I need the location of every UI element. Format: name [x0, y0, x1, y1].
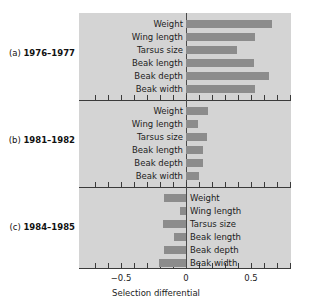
panel-index-c: (c): [9, 222, 23, 232]
bar-c-2: [163, 220, 186, 228]
bar-b-1: [186, 120, 198, 128]
bar-row: [79, 218, 291, 231]
bar-row: [79, 192, 291, 205]
bar-label: Beak width: [86, 170, 183, 182]
bar-row: [79, 244, 291, 257]
bar-label: Wing length: [190, 205, 241, 217]
bar-c-0: [164, 194, 186, 202]
bar-label: Tarsus size: [86, 131, 183, 143]
bar-b-2: [186, 133, 207, 141]
bar-a-3: [186, 59, 254, 67]
bar-a-0: [186, 20, 272, 28]
bar-a-4: [186, 72, 269, 80]
bar-b-5: [186, 172, 199, 180]
panel-period-a: 1976–1977: [23, 48, 75, 58]
bar-label: Tarsus size: [190, 218, 236, 230]
x-tick-label: 0.5: [244, 273, 258, 283]
bar-row: [79, 257, 291, 270]
bar-label: Weight: [190, 192, 220, 204]
bar-label: Beak length: [190, 231, 241, 243]
bar-label: Wing length: [86, 118, 183, 130]
panel-caption-b: (b) 1981–1982: [3, 135, 75, 145]
bar-row: [79, 205, 291, 218]
figure-selection-differential: WeightWing lengthTarsus sizeBeak lengthB…: [0, 0, 312, 305]
bar-b-4: [186, 159, 203, 167]
bar-label: Beak depth: [86, 157, 183, 169]
bar-c-1: [180, 207, 187, 215]
bar-label: Beak width: [190, 257, 237, 269]
bar-label: Tarsus size: [86, 44, 183, 56]
bar-c-5: [159, 259, 186, 267]
bar-label: Beak depth: [86, 70, 183, 82]
bar-a-2: [186, 46, 237, 54]
bar-row: [79, 231, 291, 244]
bar-label: Beak length: [86, 57, 183, 69]
bar-label: Beak depth: [190, 244, 239, 256]
bar-c-3: [174, 233, 186, 241]
panel-caption-c: (c) 1984–1985: [3, 222, 75, 232]
bar-label: Weight: [86, 105, 183, 117]
bar-b-3: [186, 146, 203, 154]
bar-c-4: [164, 246, 186, 254]
bar-a-5: [186, 85, 255, 93]
bar-a-1: [186, 33, 255, 41]
bar-label: Beak length: [86, 144, 183, 156]
x-tick-label: 0: [183, 273, 188, 283]
panel-caption-a: (a) 1976–1977: [3, 48, 75, 58]
x-tick-label: −0.5: [111, 273, 132, 283]
x-axis-title: Selection differential: [0, 288, 312, 298]
panel-index-b: (b): [9, 135, 24, 145]
bar-label: Beak width: [86, 83, 183, 95]
bar-label: Wing length: [86, 31, 183, 43]
panel-period-c: 1984–1985: [23, 222, 75, 232]
panel-period-b: 1981–1982: [23, 135, 75, 145]
bar-label: Weight: [86, 18, 183, 30]
bar-b-0: [186, 107, 208, 115]
panel-index-a: (a): [9, 48, 24, 58]
